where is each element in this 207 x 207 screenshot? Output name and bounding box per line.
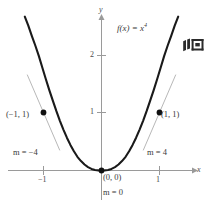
function-label: f(x) = x4 [117,24,147,33]
function-label-exponent: 4 [144,22,147,28]
point-label-right: (1, 1) [161,110,179,119]
slope-label-origin: m = 0 [103,188,123,197]
point-label-left: (−1, 1) [6,110,29,119]
y-tick-label-1: 1 [90,108,94,116]
logo-glyph-icon [182,37,207,54]
y-axis-label: y [99,6,103,14]
x-axis-label: x [197,166,201,174]
publisher-logo-watermark [182,37,207,54]
y-tick-label-2: 2 [90,51,94,59]
x-tick-label-1: 1 [156,176,160,184]
function-label-body: (x) = x [120,23,145,33]
point-label-origin: (0, 0) [103,173,121,182]
marked-point-left [41,110,47,116]
x-tick-label-neg1: −1 [38,176,47,184]
figure-container: y x 1 2 −1 1 (−1, 1) (1, 1) (0, 0) m = −… [0,0,207,207]
slope-label-right: m = 4 [147,148,167,157]
y-axis-arrowhead [99,14,105,20]
slope-label-left: m = −4 [13,148,38,157]
